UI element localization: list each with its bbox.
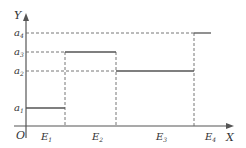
step-segments	[26, 33, 211, 108]
x-axis-arrow-icon	[226, 123, 234, 129]
x-axis-label: X	[225, 131, 235, 144]
interval-label-e3: E3	[155, 131, 167, 143]
level-label-a1: a1	[14, 102, 24, 114]
vertical-guides	[65, 33, 194, 126]
y-axis-arrow-icon	[23, 13, 29, 21]
level-label-a2: a2	[14, 65, 24, 77]
interval-label-e1: E1	[40, 131, 52, 143]
y-axis-label: Y	[14, 9, 23, 22]
interval-label-e4: E4	[204, 131, 216, 143]
level-label-a3: a3	[14, 46, 24, 58]
step-function-diagram: Y X O a4 a3 a2 a1 E1 E2 E3 E4	[0, 0, 246, 148]
interval-label-e2: E2	[91, 131, 103, 143]
level-label-a4: a4	[14, 27, 24, 39]
origin-label: O	[16, 129, 25, 142]
